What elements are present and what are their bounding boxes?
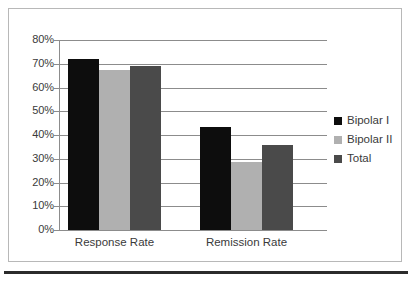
- y-axis-tick: [54, 206, 59, 207]
- y-axis-tick: [54, 230, 59, 231]
- y-axis-tick: [54, 88, 59, 89]
- gridlines-and-bars: [60, 40, 327, 230]
- y-axis-tick: [54, 135, 59, 136]
- legend-item[interactable]: Bipolar I: [334, 112, 408, 129]
- bar: [130, 66, 161, 230]
- x-axis-category-label: Response Rate: [55, 236, 175, 249]
- bar: [262, 145, 293, 231]
- y-axis-labels: 80%70%60%50%40%30%20%10%0%: [4, 0, 54, 282]
- y-axis-tick-label: 50%: [10, 105, 54, 116]
- x-axis-category-label: Remission Rate: [187, 236, 307, 249]
- bottom-divider-rule: [4, 271, 408, 274]
- legend-item[interactable]: Total: [334, 150, 408, 167]
- bar-group: [200, 40, 293, 230]
- bar: [231, 162, 262, 230]
- legend-label: Bipolar II: [347, 133, 392, 146]
- legend-item[interactable]: Bipolar II: [334, 131, 408, 148]
- y-axis-tick-label: 70%: [10, 58, 54, 69]
- y-axis-tick: [54, 159, 59, 160]
- y-axis-tick: [54, 40, 59, 41]
- y-axis-tick: [54, 64, 59, 65]
- legend-swatch-icon: [334, 136, 342, 144]
- chart-legend: Bipolar IBipolar IITotal: [334, 112, 408, 169]
- y-axis-tick-label: 10%: [10, 200, 54, 211]
- legend-label: Bipolar I: [347, 114, 389, 127]
- y-axis-tick-label: 0%: [10, 224, 54, 235]
- bar: [200, 127, 231, 230]
- legend-swatch-icon: [334, 155, 342, 163]
- gridline: [60, 230, 327, 231]
- chart-figure: 80%70%60%50%40%30%20%10%0% Response Rate…: [0, 0, 412, 282]
- bar: [99, 70, 130, 230]
- bar: [68, 59, 99, 230]
- bar-group: [68, 40, 161, 230]
- y-axis-tick-label: 20%: [10, 177, 54, 188]
- y-axis-tick-label: 30%: [10, 153, 54, 164]
- y-axis-tick: [54, 183, 59, 184]
- y-axis-tick-label: 60%: [10, 82, 54, 93]
- legend-swatch-icon: [334, 117, 342, 125]
- y-axis-tick-label: 40%: [10, 129, 54, 140]
- plot-area: [60, 40, 327, 230]
- legend-label: Total: [347, 152, 371, 165]
- y-axis-tick: [54, 111, 59, 112]
- y-axis-tick-label: 80%: [10, 34, 54, 45]
